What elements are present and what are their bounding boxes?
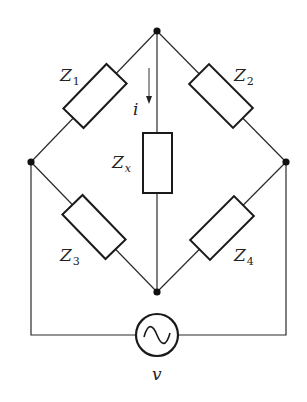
label-zx: Zx bbox=[111, 152, 132, 175]
node-right bbox=[282, 158, 289, 165]
label-source-v: v bbox=[152, 364, 162, 384]
label-z4: Z4 bbox=[233, 245, 254, 268]
ac-source bbox=[136, 314, 178, 356]
wire-source-right bbox=[178, 162, 286, 335]
impedance-zx bbox=[143, 133, 172, 193]
label-z2: Z2 bbox=[233, 65, 254, 88]
node-top bbox=[153, 27, 160, 34]
node-left bbox=[27, 158, 34, 165]
label-z1: Z1 bbox=[59, 65, 80, 88]
wire-source-left bbox=[31, 162, 136, 335]
label-current-i: i bbox=[133, 99, 138, 119]
node-bottom bbox=[153, 288, 160, 295]
impedance-z3 bbox=[62, 195, 125, 259]
impedance-z1 bbox=[63, 64, 126, 128]
label-z3: Z3 bbox=[59, 245, 80, 268]
bridge-circuit-diagram: Z1 Z2 Z3 Z4 Zx i v bbox=[0, 0, 307, 402]
current-arrow-icon bbox=[146, 68, 152, 104]
